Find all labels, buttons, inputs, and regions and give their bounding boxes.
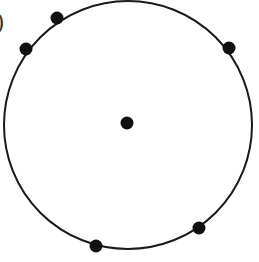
figure-label-fragment: ) — [0, 10, 5, 35]
boundary-point — [20, 43, 33, 56]
boundary-point — [90, 240, 103, 253]
boundary-point — [223, 42, 236, 55]
center-point — [121, 117, 134, 130]
boundary-point — [193, 222, 206, 235]
boundary-point — [51, 12, 64, 25]
circle-diagram: ) — [0, 0, 259, 262]
boundary-points — [20, 12, 236, 253]
